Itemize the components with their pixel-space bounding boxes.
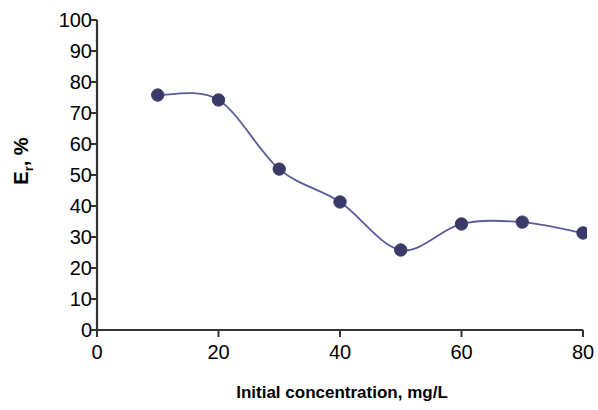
- data-point-marker: [152, 89, 164, 101]
- data-point-marker: [577, 227, 587, 239]
- data-point-marker: [395, 244, 407, 256]
- data-point-marker: [516, 216, 528, 228]
- data-series-layer: [152, 89, 587, 256]
- data-point-marker: [273, 163, 285, 175]
- data-point-marker: [455, 218, 467, 230]
- data-point-marker: [212, 94, 224, 106]
- axes-layer: [91, 20, 583, 337]
- data-point-marker: [334, 196, 346, 208]
